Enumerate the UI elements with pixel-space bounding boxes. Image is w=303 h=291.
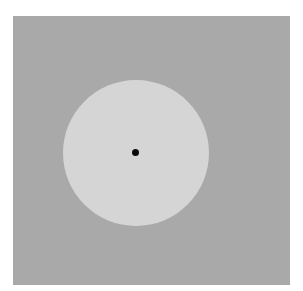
fixation-dot	[132, 149, 139, 156]
gray-square-panel	[13, 16, 290, 285]
